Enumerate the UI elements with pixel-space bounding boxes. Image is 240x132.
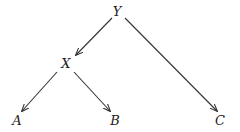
edge-y-x: [76, 18, 112, 55]
edge-x-a: [22, 72, 57, 111]
edge-x-b: [74, 72, 110, 111]
node-a: A: [12, 114, 21, 127]
node-x: X: [61, 57, 70, 70]
tree-diagram: Y X A B C: [0, 0, 240, 132]
node-c: C: [215, 114, 225, 127]
node-b: B: [110, 114, 120, 127]
node-y: Y: [113, 5, 122, 18]
edge-y-c: [125, 18, 217, 111]
